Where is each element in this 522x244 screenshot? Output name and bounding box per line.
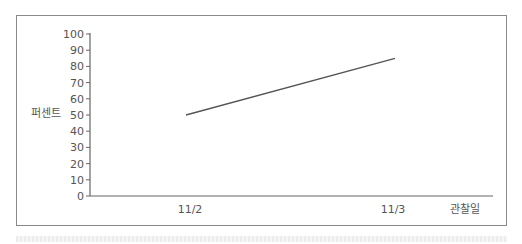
y-tick-label: 10	[70, 174, 84, 187]
x-tick-label-11-3: 11/3	[381, 203, 406, 216]
y-tick-label: 60	[70, 93, 84, 106]
y-tick-label: 40	[70, 125, 84, 138]
y-tick-label: 0	[77, 190, 84, 203]
y-tick-label: 70	[70, 77, 84, 90]
y-tick-label: 20	[70, 158, 84, 171]
line-chart: 0102030405060708090100 11/2 11/3 관찰일 퍼센트	[0, 0, 522, 244]
x-axis-title: 관찰일	[450, 202, 480, 216]
y-tick-label: 80	[70, 60, 84, 73]
y-tick-label: 50	[70, 109, 84, 122]
y-tick-label: 90	[70, 44, 84, 57]
y-ticks: 0102030405060708090100	[63, 28, 90, 203]
y-tick-label: 30	[70, 141, 84, 154]
series-line	[186, 58, 395, 115]
x-tick-label-11-2: 11/2	[178, 203, 203, 216]
y-tick-label: 100	[63, 28, 84, 41]
y-axis-title: 퍼센트	[31, 107, 61, 120]
